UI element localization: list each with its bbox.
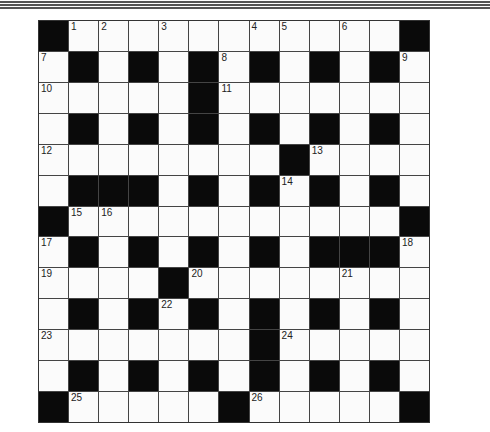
answer-cell[interactable] <box>370 207 399 237</box>
answer-cell[interactable] <box>129 207 158 237</box>
answer-cell[interactable]: 23 <box>39 330 68 360</box>
answer-cell[interactable] <box>219 268 248 298</box>
answer-cell[interactable]: 22 <box>159 299 188 329</box>
answer-cell[interactable] <box>340 361 369 391</box>
answer-cell[interactable] <box>159 392 188 422</box>
answer-cell[interactable] <box>219 299 248 329</box>
answer-cell[interactable] <box>99 361 128 391</box>
answer-cell[interactable] <box>99 268 128 298</box>
answer-cell[interactable] <box>280 237 309 267</box>
answer-cell[interactable] <box>99 299 128 329</box>
answer-cell[interactable]: 5 <box>280 21 309 51</box>
answer-cell[interactable] <box>280 392 309 422</box>
answer-cell[interactable] <box>99 330 128 360</box>
answer-cell[interactable]: 4 <box>250 21 279 51</box>
answer-cell[interactable] <box>280 299 309 329</box>
answer-cell[interactable]: 21 <box>340 268 369 298</box>
answer-cell[interactable] <box>219 145 248 175</box>
answer-cell[interactable]: 10 <box>39 83 68 113</box>
answer-cell[interactable] <box>250 83 279 113</box>
answer-cell[interactable] <box>69 268 98 298</box>
answer-cell[interactable] <box>159 330 188 360</box>
answer-cell[interactable] <box>400 114 429 144</box>
answer-cell[interactable] <box>159 207 188 237</box>
answer-cell[interactable]: 12 <box>39 145 68 175</box>
answer-cell[interactable] <box>310 330 339 360</box>
answer-cell[interactable] <box>400 83 429 113</box>
answer-cell[interactable]: 16 <box>99 207 128 237</box>
answer-cell[interactable] <box>129 21 158 51</box>
answer-cell[interactable]: 9 <box>400 52 429 82</box>
answer-cell[interactable] <box>340 207 369 237</box>
answer-cell[interactable]: 20 <box>189 268 218 298</box>
answer-cell[interactable]: 26 <box>250 392 279 422</box>
answer-cell[interactable] <box>400 361 429 391</box>
answer-cell[interactable] <box>129 392 158 422</box>
answer-cell[interactable] <box>69 330 98 360</box>
answer-cell[interactable] <box>69 83 98 113</box>
answer-cell[interactable] <box>250 145 279 175</box>
answer-cell[interactable] <box>370 392 399 422</box>
answer-cell[interactable]: 17 <box>39 237 68 267</box>
answer-cell[interactable] <box>219 361 248 391</box>
answer-cell[interactable] <box>370 268 399 298</box>
answer-cell[interactable] <box>159 361 188 391</box>
answer-cell[interactable] <box>189 207 218 237</box>
answer-cell[interactable]: 11 <box>219 83 248 113</box>
answer-cell[interactable] <box>189 330 218 360</box>
answer-cell[interactable] <box>310 21 339 51</box>
answer-cell[interactable]: 13 <box>310 145 339 175</box>
answer-cell[interactable] <box>99 52 128 82</box>
answer-cell[interactable] <box>99 237 128 267</box>
answer-cell[interactable] <box>280 83 309 113</box>
answer-cell[interactable] <box>250 207 279 237</box>
answer-cell[interactable] <box>310 392 339 422</box>
answer-cell[interactable] <box>400 299 429 329</box>
answer-cell[interactable] <box>69 145 98 175</box>
answer-cell[interactable] <box>340 145 369 175</box>
answer-cell[interactable]: 2 <box>99 21 128 51</box>
answer-cell[interactable] <box>400 330 429 360</box>
answer-cell[interactable] <box>39 361 68 391</box>
answer-cell[interactable]: 19 <box>39 268 68 298</box>
answer-cell[interactable] <box>99 83 128 113</box>
answer-cell[interactable] <box>400 268 429 298</box>
answer-cell[interactable] <box>159 114 188 144</box>
answer-cell[interactable] <box>219 237 248 267</box>
answer-cell[interactable] <box>310 268 339 298</box>
answer-cell[interactable] <box>159 145 188 175</box>
answer-cell[interactable] <box>280 361 309 391</box>
answer-cell[interactable]: 6 <box>340 21 369 51</box>
answer-cell[interactable] <box>99 114 128 144</box>
answer-cell[interactable] <box>219 207 248 237</box>
answer-cell[interactable] <box>99 145 128 175</box>
answer-cell[interactable] <box>280 52 309 82</box>
answer-cell[interactable] <box>280 207 309 237</box>
answer-cell[interactable] <box>340 299 369 329</box>
answer-cell[interactable]: 3 <box>159 21 188 51</box>
answer-cell[interactable] <box>219 21 248 51</box>
answer-cell[interactable] <box>219 330 248 360</box>
answer-cell[interactable]: 8 <box>219 52 248 82</box>
answer-cell[interactable] <box>129 145 158 175</box>
answer-cell[interactable] <box>340 114 369 144</box>
answer-cell[interactable] <box>99 392 128 422</box>
answer-cell[interactable]: 25 <box>69 392 98 422</box>
answer-cell[interactable] <box>340 52 369 82</box>
answer-cell[interactable] <box>219 176 248 206</box>
answer-cell[interactable] <box>250 268 279 298</box>
answer-cell[interactable] <box>310 207 339 237</box>
answer-cell[interactable] <box>159 237 188 267</box>
answer-cell[interactable] <box>370 83 399 113</box>
answer-cell[interactable] <box>129 268 158 298</box>
answer-cell[interactable] <box>340 83 369 113</box>
answer-cell[interactable] <box>400 145 429 175</box>
answer-cell[interactable] <box>340 176 369 206</box>
answer-cell[interactable]: 24 <box>280 330 309 360</box>
answer-cell[interactable] <box>370 145 399 175</box>
answer-cell[interactable] <box>39 176 68 206</box>
answer-cell[interactable] <box>370 330 399 360</box>
answer-cell[interactable] <box>189 145 218 175</box>
answer-cell[interactable]: 1 <box>69 21 98 51</box>
answer-cell[interactable]: 7 <box>39 52 68 82</box>
